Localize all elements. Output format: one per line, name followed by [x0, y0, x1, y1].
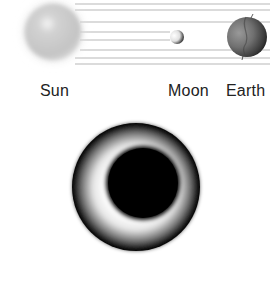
- earth-label: Earth: [226, 82, 265, 100]
- moon-icon: [170, 30, 184, 44]
- solar-eclipse-diagram: [0, 0, 274, 284]
- earth-icon: [227, 14, 267, 60]
- total-eclipse-image: [72, 123, 200, 251]
- sun-icon: [19, 0, 87, 66]
- moon-label: Moon: [168, 82, 209, 100]
- sun-label: Sun: [40, 82, 69, 100]
